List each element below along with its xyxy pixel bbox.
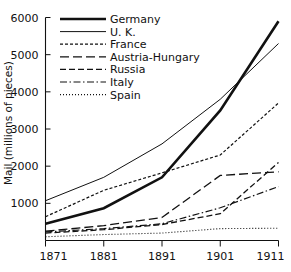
x-tick-label-1901: 1901: [206, 250, 234, 263]
legend-label-france: France: [110, 38, 147, 51]
y-tick-label-6000: 6000: [11, 12, 39, 25]
legend-label-germany: Germany: [110, 13, 161, 26]
x-tick-label-1891: 1891: [148, 250, 176, 263]
y-axis-tick-labels: 100020003000400050006000: [11, 12, 39, 211]
legend: GermanyU. K.FranceAustria-HungaryRussiaI…: [60, 13, 200, 102]
y-axis-ticks: [46, 18, 51, 204]
y-axis-title: Mail (millions of pieces): [2, 61, 14, 185]
y-tick-label-3000: 3000: [11, 123, 39, 136]
line-chart: 100020003000400050006000 187118811891190…: [0, 0, 291, 272]
legend-label-russia: Russia: [110, 63, 145, 76]
legend-label-italy: Italy: [110, 76, 134, 89]
y-tick-label-2000: 2000: [11, 160, 39, 173]
legend-label-austria-hungary: Austria-Hungary: [110, 51, 200, 64]
y-tick-label-1000: 1000: [11, 197, 39, 210]
x-tick-label-1881: 1881: [90, 250, 118, 263]
series-line-austria-hungary: [46, 172, 279, 231]
y-tick-label-5000: 5000: [11, 49, 39, 62]
series-line-russia: [46, 162, 279, 233]
x-axis-tick-labels: 18711881189119011911: [40, 250, 285, 263]
legend-label-spain: Spain: [110, 89, 141, 102]
series-line-italy: [46, 187, 279, 232]
x-axis-ticks: [46, 241, 279, 247]
chart-canvas: 100020003000400050006000 187118811891190…: [0, 0, 291, 272]
x-tick-label-1871: 1871: [40, 250, 68, 263]
y-tick-label-4000: 4000: [11, 86, 39, 99]
legend-label-u-k: U. K.: [110, 26, 136, 39]
series-line-france: [46, 103, 279, 217]
series-line-spain: [46, 228, 279, 237]
x-tick-label-1911: 1911: [257, 250, 285, 263]
